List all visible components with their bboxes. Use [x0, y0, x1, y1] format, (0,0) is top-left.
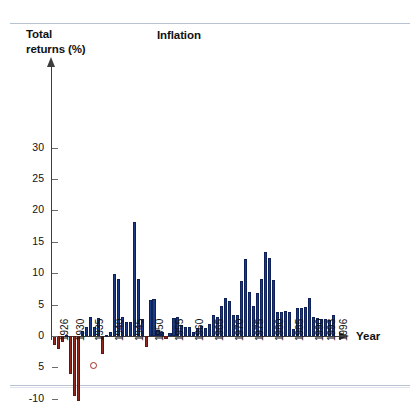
x-axis-tick-label: 1950 — [154, 319, 165, 341]
bar — [228, 301, 231, 336]
y-axis-tick-label: 5 — [2, 298, 44, 310]
y-axis-tick-label: -10 — [2, 392, 44, 402]
x-axis-tick-label: 1960 — [194, 319, 205, 341]
x-axis-tick-label: 1990 — [314, 319, 325, 341]
y-axis-tick — [52, 210, 58, 211]
x-axis-tick-label: 1993 — [326, 319, 337, 341]
bar — [73, 336, 76, 396]
y-axis-tick-label: 15 — [2, 235, 44, 247]
bar — [105, 335, 108, 337]
x-axis-tick-label: 1935 — [94, 319, 105, 341]
bar — [268, 258, 271, 336]
y-axis-tick — [52, 242, 58, 243]
bar — [308, 298, 311, 336]
bar — [208, 324, 211, 336]
bar — [129, 322, 132, 336]
x-axis-tick-label: 1926 — [59, 319, 70, 341]
x-axis-tick-label: 1930 — [75, 319, 86, 341]
bar — [149, 300, 152, 336]
y-axis-arrow-icon — [47, 57, 55, 67]
bar-chart-plot: Year 3025201510505-10 192619301935194019… — [0, 0, 420, 402]
y-axis-tick-label: 20 — [2, 203, 44, 215]
bar — [188, 327, 191, 336]
x-axis-tick-label: 1955 — [174, 319, 185, 341]
x-axis-tick-label: 1970 — [234, 319, 245, 341]
bar — [125, 322, 128, 336]
bar — [53, 336, 56, 345]
bar — [77, 336, 80, 401]
x-axis-tick-label: 1980 — [274, 319, 285, 341]
y-axis-tick — [52, 179, 58, 180]
y-axis-line — [51, 66, 52, 340]
bar — [248, 292, 251, 336]
y-axis-tick — [52, 273, 58, 274]
x-axis-tick-label: 1985 — [294, 319, 305, 341]
bar — [288, 312, 291, 336]
x-axis-tick-label: 1940 — [114, 319, 125, 341]
x-axis-tick-label: 1996 — [338, 319, 349, 341]
y-axis-tick — [52, 367, 58, 368]
red-circle-marker-icon — [90, 362, 97, 369]
y-axis-tick-label: 10 — [2, 266, 44, 278]
y-axis-tick — [52, 336, 58, 337]
y-axis-tick — [52, 305, 58, 306]
figure-page: Total returns (%) Inflation Year 3025201… — [0, 0, 420, 402]
bar — [69, 336, 72, 374]
y-axis-tick — [52, 148, 58, 149]
bar — [89, 317, 92, 336]
bar — [109, 332, 112, 336]
bar — [168, 333, 171, 336]
x-axis-tick-label: 1965 — [214, 319, 225, 341]
y-axis-tick-label: 25 — [2, 172, 44, 184]
y-axis-tick-label: 5 — [2, 360, 44, 372]
y-axis-tick-label: 30 — [2, 141, 44, 153]
y-axis-tick-label: 0 — [2, 329, 44, 341]
x-axis-tick-label: 1945 — [134, 319, 145, 341]
y-axis-tick — [52, 399, 58, 400]
x-axis-tick-label: 1975 — [254, 319, 265, 341]
x-axis-title: Year — [356, 330, 380, 342]
